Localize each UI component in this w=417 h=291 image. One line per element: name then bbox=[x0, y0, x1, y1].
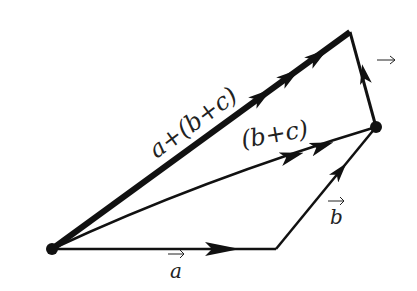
origin-point bbox=[46, 243, 58, 255]
vector-a bbox=[52, 242, 276, 256]
vector-diagram: a b (b+c) a+(b+c) bbox=[0, 0, 417, 291]
svg-text:b: b bbox=[330, 205, 343, 229]
label-b: b bbox=[328, 197, 344, 229]
b-end-point bbox=[370, 121, 382, 133]
vector-c bbox=[350, 32, 376, 127]
label-a: a bbox=[168, 250, 184, 283]
svg-text:(b+c): (b+c) bbox=[239, 115, 310, 154]
label-b-plus-c: (b+c) bbox=[239, 115, 310, 154]
label-c-arrow bbox=[377, 56, 395, 64]
svg-text:a: a bbox=[170, 259, 182, 283]
